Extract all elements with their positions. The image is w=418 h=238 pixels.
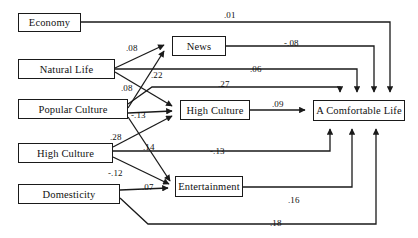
node-a-comfortable-life[interactable]: A Comfortable Life — [313, 100, 405, 121]
path-diagram: Economy Natural Life Popular Culture Hig… — [0, 0, 418, 238]
node-popular-culture[interactable]: Popular Culture — [18, 99, 128, 119]
node-label: High Culture — [37, 148, 94, 159]
node-label: A Comfortable Life — [316, 105, 402, 116]
node-label: Natural Life — [40, 64, 93, 75]
node-high-culture-exogenous[interactable]: High Culture — [18, 143, 113, 163]
node-label: Economy — [29, 17, 70, 28]
node-label: News — [187, 41, 212, 52]
edge-entertainment-to-comfortable — [243, 129, 352, 187]
edge-label-entertainment-comfortable: .16 — [288, 195, 300, 205]
node-economy[interactable]: Economy — [18, 13, 81, 32]
node-high-culture-mediator[interactable]: High Culture — [180, 100, 250, 120]
edge-label-economy-comfortable: .01 — [224, 10, 236, 20]
edge-domesticity-to-comfortable — [120, 129, 376, 224]
node-label: Domesticity — [43, 189, 96, 200]
edge-label-highculturemid-comfortable: .09 — [272, 99, 284, 109]
edge-naturallife-to-news — [115, 45, 164, 68]
edge-economy-to-comfortable — [81, 22, 390, 92]
edge-label-highcultureex-entertainment: -.12 — [108, 168, 123, 178]
edge-label-popularculture-news: .22 — [151, 70, 163, 80]
edge-label-popularculture-entertainment: .14 — [143, 142, 155, 152]
edge-label-domesticity-comfortable: .18 — [270, 218, 282, 228]
edge-label-naturallife-comfortable: .06 — [250, 64, 262, 74]
node-label: Entertainment — [178, 181, 239, 192]
edge-label-popularculture-highculturemid: -.13 — [131, 110, 146, 120]
node-label: Popular Culture — [38, 104, 107, 115]
edge-label-news-comfortable: -.08 — [284, 38, 299, 48]
edge-label-highcultureex-highculturemid: .28 — [110, 132, 122, 142]
edge-label-naturallife-highculturemid: .08 — [121, 83, 133, 93]
edge-label-domesticity-entertainment: .07 — [142, 182, 154, 192]
node-domesticity[interactable]: Domesticity — [18, 184, 120, 204]
edge-label-popularculture-comfortable: .27 — [218, 79, 230, 89]
node-natural-life[interactable]: Natural Life — [18, 59, 115, 79]
edge-label-highcultureex-comfortable: -.13 — [210, 146, 225, 156]
node-entertainment[interactable]: Entertainment — [175, 176, 243, 197]
node-label: High Culture — [187, 105, 244, 116]
node-news[interactable]: News — [172, 36, 226, 56]
edge-label-naturallife-news: .08 — [126, 43, 138, 53]
